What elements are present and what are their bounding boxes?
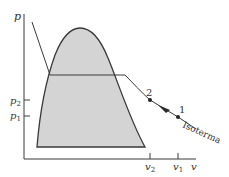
y-axis-label: p xyxy=(14,10,21,23)
p2-label: p2 xyxy=(10,95,21,108)
saturation-dome xyxy=(37,28,145,147)
v1-label: v1 xyxy=(173,161,183,174)
state-point-2 xyxy=(148,98,152,102)
state-1-label: 1 xyxy=(179,104,185,115)
x-axis-label: v xyxy=(191,161,197,172)
p1-label: p1 xyxy=(10,110,21,123)
state-point-1 xyxy=(176,115,180,119)
state-2-label: 2 xyxy=(146,87,152,98)
isotherm-label: Isoterma xyxy=(181,120,223,146)
arrow-icon xyxy=(158,105,170,113)
v2-label: v2 xyxy=(145,161,155,174)
pv-diagram: p v p2 p1 v2 v1 2 1 Isoterma xyxy=(0,0,229,177)
